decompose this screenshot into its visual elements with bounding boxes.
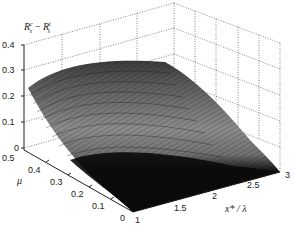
svg-text:0.5: 0.5 [2, 153, 15, 163]
svg-text:0.4: 0.4 [2, 40, 15, 50]
svg-text:0.3: 0.3 [2, 65, 15, 75]
svg-text:0.1: 0.1 [92, 201, 105, 211]
surface [28, 61, 280, 212]
svg-text:3: 3 [285, 170, 290, 180]
svg-text:1: 1 [135, 215, 140, 225]
svg-text:0.1: 0.1 [2, 117, 15, 127]
svg-text:1.5: 1.5 [174, 203, 187, 213]
svg-text:0.4: 0.4 [28, 165, 41, 175]
svg-text:0: 0 [14, 143, 19, 153]
svg-text:2.5: 2.5 [247, 180, 260, 190]
svg-text:0.2: 0.2 [2, 91, 15, 101]
svg-text:0.3: 0.3 [50, 177, 63, 187]
z-axis-title: Rcs−Rts [23, 21, 51, 34]
svg-text:0: 0 [120, 213, 125, 223]
svg-text:2: 2 [212, 191, 217, 201]
surface-plot: 0.4 0.3 0.2 0.1 0 0.5 0.4 0.3 0.2 0.1 0 … [0, 0, 294, 227]
z-tick-labels: 0.4 0.3 0.2 0.1 0 [2, 40, 19, 153]
mu-axis-title: μ [16, 175, 22, 186]
x-axis-title: x* / λ [224, 203, 247, 214]
svg-text:0.2: 0.2 [71, 189, 84, 199]
